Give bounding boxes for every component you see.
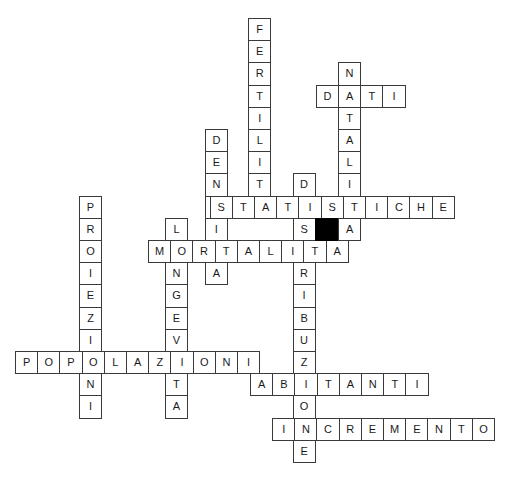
crossword-cell[interactable]: U — [293, 329, 316, 352]
crossword-cell[interactable]: L — [259, 240, 282, 263]
crossword-cell[interactable]: T — [248, 173, 271, 196]
crossword-cell[interactable]: A — [326, 240, 349, 263]
crossword-grid: FERTILITANATALITADTIDENSITADISTRIBUZIONE… — [0, 0, 505, 482]
crossword-cell[interactable]: D — [316, 85, 339, 108]
crossword-cell[interactable]: T — [215, 240, 238, 263]
crossword-cell[interactable]: B — [293, 307, 316, 330]
crossword-cell[interactable]: F — [248, 18, 271, 41]
crossword-cell[interactable]: O — [293, 395, 316, 418]
crossword-cell[interactable]: E — [293, 440, 316, 463]
crossword-cell[interactable]: O — [79, 240, 102, 263]
crossword-cell[interactable]: I — [272, 418, 295, 441]
crossword-cell[interactable]: M — [383, 418, 406, 441]
crossword-cell[interactable]: T — [383, 373, 406, 396]
crossword-cell[interactable]: N — [294, 418, 317, 441]
crossword-cell[interactable]: T — [232, 196, 255, 219]
crossword-cell[interactable]: R — [192, 240, 215, 263]
crossword-cell[interactable]: H — [409, 196, 432, 219]
crossword-cell[interactable]: M — [148, 240, 171, 263]
crossword-cell[interactable]: V — [165, 329, 188, 352]
crossword-cell[interactable]: G — [165, 284, 188, 307]
crossword-cell[interactable]: E — [248, 40, 271, 63]
crossword-cell[interactable]: B — [272, 373, 295, 396]
crossword-cell[interactable]: O — [37, 351, 60, 374]
crossword-blocked-cell — [315, 218, 338, 241]
crossword-cell[interactable]: I — [79, 329, 102, 352]
crossword-cell[interactable]: A — [338, 129, 361, 152]
crossword-cell[interactable]: A — [205, 262, 228, 285]
crossword-cell[interactable]: A — [338, 218, 361, 241]
crossword-cell[interactable]: T — [303, 240, 326, 263]
crossword-cell[interactable]: C — [387, 196, 410, 219]
crossword-cell[interactable]: I — [248, 107, 271, 130]
crossword-cell[interactable]: I — [170, 351, 193, 374]
crossword-cell[interactable]: I — [79, 395, 102, 418]
crossword-cell[interactable]: L — [165, 218, 188, 241]
crossword-cell[interactable]: S — [321, 196, 344, 219]
crossword-cell[interactable]: N — [165, 262, 188, 285]
crossword-cell[interactable]: T — [450, 418, 473, 441]
crossword-cell[interactable]: I — [293, 284, 316, 307]
crossword-cell[interactable]: E — [205, 151, 228, 174]
crossword-cell[interactable]: O — [193, 351, 216, 374]
crossword-cell[interactable]: L — [104, 351, 127, 374]
crossword-cell[interactable]: I — [237, 351, 260, 374]
crossword-cell[interactable]: A — [338, 85, 361, 108]
crossword-cell[interactable]: A — [237, 240, 260, 263]
crossword-cell[interactable]: T — [248, 85, 271, 108]
crossword-cell[interactable]: R — [248, 62, 271, 85]
crossword-cell[interactable]: Z — [293, 351, 316, 374]
crossword-cell[interactable]: O — [170, 240, 193, 263]
crossword-cell[interactable]: D — [205, 129, 228, 152]
crossword-cell[interactable]: P — [15, 351, 38, 374]
crossword-cell[interactable]: E — [405, 418, 428, 441]
crossword-cell[interactable]: I — [405, 373, 428, 396]
crossword-cell[interactable]: P — [79, 196, 102, 219]
crossword-cell[interactable]: I — [205, 218, 228, 241]
crossword-cell[interactable]: N — [338, 62, 361, 85]
crossword-cell[interactable]: I — [338, 173, 361, 196]
crossword-cell[interactable]: Z — [148, 351, 171, 374]
crossword-cell[interactable]: N — [215, 351, 238, 374]
crossword-cell[interactable]: I — [248, 151, 271, 174]
crossword-cell[interactable]: T — [276, 196, 299, 219]
crossword-cell[interactable]: A — [254, 196, 277, 219]
crossword-cell[interactable]: A — [339, 373, 362, 396]
crossword-cell[interactable]: A — [165, 395, 188, 418]
crossword-cell[interactable]: N — [361, 373, 384, 396]
crossword-cell[interactable]: R — [339, 418, 362, 441]
crossword-cell[interactable]: I — [298, 196, 321, 219]
crossword-cell[interactable]: R — [79, 218, 102, 241]
crossword-cell[interactable]: I — [382, 85, 405, 108]
crossword-cell[interactable]: T — [338, 107, 361, 130]
crossword-cell[interactable]: D — [293, 173, 316, 196]
crossword-cell[interactable]: A — [250, 373, 273, 396]
crossword-cell[interactable]: T — [165, 373, 188, 396]
crossword-cell[interactable]: N — [427, 418, 450, 441]
crossword-cell[interactable]: T — [360, 85, 383, 108]
crossword-cell[interactable]: T — [343, 196, 366, 219]
crossword-cell[interactable]: L — [248, 129, 271, 152]
crossword-cell[interactable]: I — [294, 373, 317, 396]
crossword-cell[interactable]: I — [281, 240, 304, 263]
crossword-cell[interactable]: N — [79, 373, 102, 396]
crossword-cell[interactable]: E — [165, 307, 188, 330]
crossword-cell[interactable]: E — [432, 196, 455, 219]
crossword-cell[interactable]: O — [472, 418, 495, 441]
crossword-cell[interactable]: E — [79, 284, 102, 307]
crossword-cell[interactable]: O — [82, 351, 105, 374]
crossword-cell[interactable]: C — [316, 418, 339, 441]
crossword-cell[interactable]: T — [317, 373, 340, 396]
crossword-cell[interactable]: R — [293, 262, 316, 285]
crossword-cell[interactable]: I — [79, 262, 102, 285]
crossword-cell[interactable]: S — [210, 196, 233, 219]
crossword-cell[interactable]: A — [126, 351, 149, 374]
crossword-cell[interactable]: P — [59, 351, 82, 374]
crossword-cell[interactable]: N — [205, 173, 228, 196]
crossword-cell[interactable]: Z — [79, 307, 102, 330]
crossword-cell[interactable]: S — [293, 218, 316, 241]
crossword-cell[interactable]: I — [365, 196, 388, 219]
crossword-cell[interactable]: L — [338, 151, 361, 174]
crossword-cell[interactable]: E — [361, 418, 384, 441]
